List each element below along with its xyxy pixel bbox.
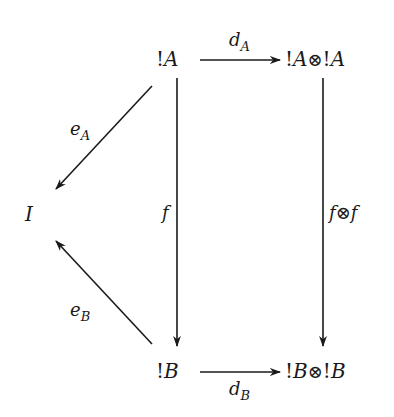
object-A: A [331,47,345,71]
label-subscript: A [241,39,250,54]
label-eB: eB [70,301,90,319]
label-f: f [162,204,169,222]
object-B: B [331,359,346,383]
object-A: A [164,47,178,71]
node-I: I [25,204,33,224]
tensor-icon: ⊗ [308,361,323,382]
bang-symbol: ! [285,359,293,383]
label-dB: dB [229,380,250,398]
label-eA: eA [70,120,90,138]
node-bang-A-tensor-bang-A: !A⊗!A [285,49,345,69]
label-dA: dA [229,31,250,49]
commutative-diagram: !A !A⊗!A I !B !B⊗!B dA eA f f⊗f eB dB [0,0,394,417]
label-subscript: B [241,388,251,403]
label-base: e [70,299,81,320]
label-subscript: A [81,128,90,143]
label-base: d [229,378,241,399]
label-base: e [70,118,81,139]
label-subscript: B [81,309,91,324]
object-I: I [25,202,33,226]
object-A: A [293,47,307,71]
arrow-eB [56,241,152,344]
label-base: f [162,202,169,223]
node-bang-B-tensor-bang-B: !B⊗!B [285,361,346,381]
tensor-icon: ⊗ [336,202,351,223]
label-f: f [351,202,358,223]
bang-symbol: ! [285,47,293,71]
bang-symbol: ! [323,359,331,383]
bang-symbol: ! [156,359,164,383]
label-base: d [229,29,241,50]
tensor-icon: ⊗ [308,49,323,70]
bang-symbol: ! [156,47,164,71]
bang-symbol: ! [323,47,331,71]
object-B: B [164,359,179,383]
node-bang-A: !A [156,49,179,69]
label-f: f [329,202,336,223]
object-B: B [293,359,308,383]
node-bang-B: !B [156,361,179,381]
label-ftensorf: f⊗f [329,204,357,222]
